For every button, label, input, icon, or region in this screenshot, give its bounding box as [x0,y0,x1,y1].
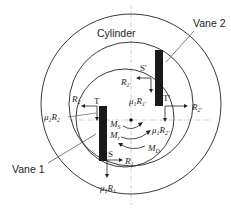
vane-1 [99,106,107,161]
cylinder-label: Cylinder [97,27,136,39]
force-r2-prime: R2' [191,102,203,113]
point-s: S [108,149,113,159]
point-s-prime: S' [140,63,147,73]
vane-1-label: Vane 1 [12,163,45,175]
vane-force-diagram: Cylinder Vane 2 Vane 1 S' R1' μ1R1' T' R… [0,0,231,209]
force-mu1r2-prime: μ1R2' [151,125,170,136]
moment-ms: MS [109,119,121,130]
moment-md: MD [147,143,161,154]
point-t: T [94,96,100,106]
vane-1-leader [48,134,96,163]
force-r2: R2 [71,94,81,105]
moment-mr: Mr [109,130,121,141]
point-t-prime: T' [163,93,170,103]
force-r1-prime: R1' [120,77,132,88]
force-mu1r2: μ1R2 [43,112,60,123]
vane-2-leader [166,31,194,62]
center-point [129,118,133,122]
force-r1: R1 [124,156,134,167]
vane-2-label: Vane 2 [193,17,226,29]
force-mu1r1: μ1R1 [99,183,116,194]
force-mu1r1-prime: μ1R1' [128,96,147,107]
vane-2 [155,50,163,106]
